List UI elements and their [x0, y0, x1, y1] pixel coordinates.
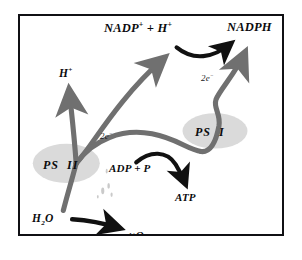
label-water: H2O	[32, 213, 53, 225]
label-nadp-plus-h: NADP+ + H+	[104, 22, 172, 35]
water-to-oxygen-arrow	[72, 219, 119, 228]
label-adp-p: ADP + P	[109, 163, 150, 174]
diagram-canvas	[20, 16, 282, 234]
label-two-electrons-right: 2e−	[201, 74, 214, 83]
label-oxygen: ½O2	[129, 230, 147, 236]
nadp-to-nadph-arrow	[177, 43, 231, 56]
label-photosystem-one: PS I	[195, 126, 225, 138]
diagram-frame: NADP+ + H+ NADPH H+ 2e− 2e− PS II PS I A…	[18, 14, 284, 236]
figure-root: NADP+ + H+ NADPH H+ 2e− 2e− PS II PS I A…	[0, 0, 302, 260]
label-h-plus: H+	[59, 68, 72, 80]
label-photosystem-two: PS II	[43, 159, 78, 171]
label-atp: ATP	[175, 192, 196, 203]
label-nadph: NADPH	[227, 21, 272, 34]
label-two-electrons-left: 2e−	[100, 132, 113, 141]
